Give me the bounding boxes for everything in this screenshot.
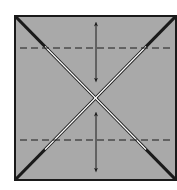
- origami-diagram: [0, 0, 177, 190]
